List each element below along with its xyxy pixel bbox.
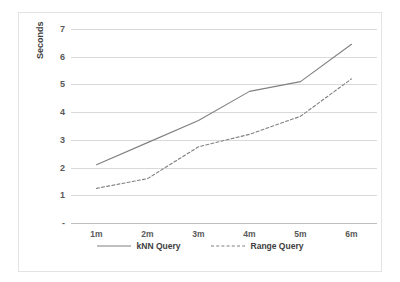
y-tick-label: 5 <box>60 79 65 89</box>
y-tick-label: 7 <box>60 24 65 34</box>
x-tick-label: 4m <box>243 229 255 239</box>
y-axis-label: Seconds <box>35 21 45 59</box>
series-lines <box>71 29 377 223</box>
y-tick-label: 2 <box>60 163 65 173</box>
x-tick-label: 2m <box>141 229 153 239</box>
x-tick-label: 6m <box>345 229 357 239</box>
x-tick-label: 5m <box>294 229 306 239</box>
legend-item-knn-query[interactable]: kNN Query <box>97 241 181 251</box>
plot-area: -1234567 1m2m3m4m5m6m <box>71 29 377 223</box>
series-line-range-query <box>97 79 352 188</box>
legend-label: Range Query <box>251 241 304 251</box>
legend-swatch-dashed-icon <box>211 243 245 249</box>
y-tick-label: 3 <box>60 135 65 145</box>
x-tick-label: 3m <box>192 229 204 239</box>
x-tick-label: 1m <box>90 229 102 239</box>
legend-swatch-solid-icon <box>97 243 131 249</box>
y-tick-label: - <box>62 218 65 228</box>
series-line-knn-query <box>97 44 352 165</box>
chart-figure: Seconds -1234567 1m2m3m4m5m6m kNN Query … <box>18 12 382 272</box>
x-axis-line <box>71 223 377 224</box>
y-tick-label: 1 <box>60 190 65 200</box>
y-tick-label: 6 <box>60 52 65 62</box>
chart-legend: kNN Query Range Query <box>19 241 381 251</box>
y-tick-label: 4 <box>60 107 65 117</box>
legend-item-range-query[interactable]: Range Query <box>211 241 304 251</box>
legend-label: kNN Query <box>137 241 181 251</box>
